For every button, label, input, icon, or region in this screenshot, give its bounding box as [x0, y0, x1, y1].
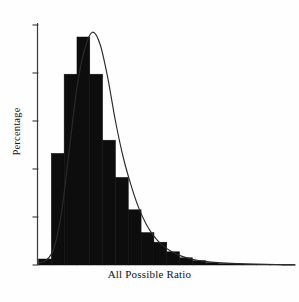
histogram-bar	[103, 140, 116, 265]
histogram-bar	[167, 252, 180, 265]
histogram-bar	[77, 37, 90, 265]
histogram-bar	[141, 233, 154, 265]
histogram-bar	[39, 259, 52, 265]
x-axis-title: All Possible Ratio	[0, 268, 299, 280]
histogram-bar	[128, 210, 141, 265]
y-axis-title: Percentage	[11, 87, 22, 177]
bars-group	[39, 37, 295, 265]
histogram-bar	[218, 264, 231, 265]
plot-canvas	[0, 0, 299, 302]
y-axis-group	[33, 23, 39, 265]
histogram-bar	[90, 74, 103, 265]
histogram-bar	[154, 242, 167, 265]
histogram-figure: All Possible Ratio Percentage	[0, 0, 299, 302]
histogram-bar	[115, 177, 128, 265]
